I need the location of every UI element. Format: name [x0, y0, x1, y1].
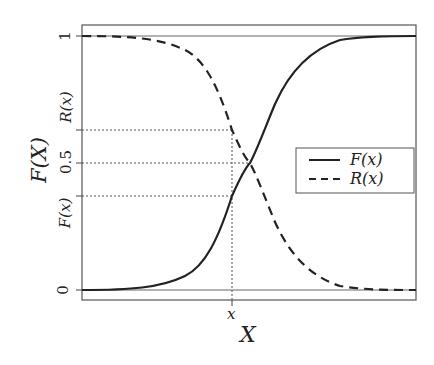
- y-ticks: [76, 36, 82, 290]
- y-tick-label-1: 1: [56, 31, 74, 41]
- legend-label-R: R(x): [350, 169, 384, 188]
- x-tick-label: x: [227, 305, 235, 323]
- x-axis-label: X: [240, 322, 256, 347]
- y-axis-label: F(X): [27, 137, 51, 183]
- y-tick-label-0: 0: [54, 285, 72, 295]
- y-tick-label-half: 0.5: [57, 150, 75, 174]
- y-tick-label-Fx: F(x): [56, 198, 74, 229]
- y-tick-label-Rx: R(x): [57, 91, 75, 122]
- legend-label-F: F(x): [350, 150, 383, 169]
